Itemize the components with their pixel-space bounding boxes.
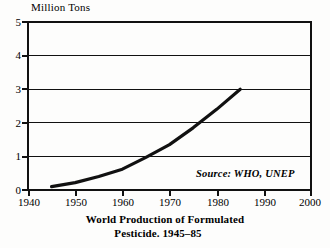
x-tick-label-2000: 2000 [292, 196, 328, 208]
plot-area [28, 22, 311, 190]
x-tick-label-1940: 1940 [11, 196, 47, 208]
y-tick-label-3: 3 [10, 84, 21, 95]
x-tick-label-1980: 1980 [200, 196, 236, 208]
gridline-3 [28, 89, 311, 90]
y-tick-label-1: 1 [10, 151, 21, 162]
y-axis-caption: Million Tons [31, 1, 90, 14]
chart-title: World Production of Formulated Pesticide… [0, 212, 330, 240]
y-tick-label-0: 0 [10, 185, 21, 196]
x-tick-label-1950: 1950 [58, 196, 94, 208]
x-tick-label-1960: 1960 [105, 196, 141, 208]
gridline-1 [28, 156, 311, 157]
x-tick-label-1990: 1990 [247, 196, 283, 208]
y-tick-label-4: 4 [10, 50, 21, 61]
source-annotation: Source: WHO, UNEP [196, 168, 295, 180]
x-tick-label-1970: 1970 [152, 196, 188, 208]
chart-title-line-1: World Production of Formulated [86, 213, 244, 225]
plot-right-border [310, 21, 312, 191]
y-tick-label-2: 2 [10, 118, 21, 129]
y-tick-label-5: 5 [10, 17, 21, 28]
gridline-5 [28, 21, 311, 23]
pesticide-production-chart: Million Tons 5 4 3 2 1 0 1940 1950 1960 … [0, 0, 330, 248]
gridline-2 [28, 122, 311, 123]
gridline-4 [28, 55, 311, 56]
chart-title-line-2: Pesticide. 1945–85 [0, 226, 330, 240]
y-axis-line [27, 21, 29, 191]
